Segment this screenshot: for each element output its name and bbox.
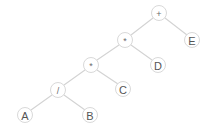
expression-tree-figure: +*E*D/CAB: [0, 0, 208, 132]
tree-node-times[interactable]: *: [118, 33, 133, 48]
tree-edge-n0-n2: [165, 18, 187, 35]
tree-edge-n3-n5: [64, 70, 85, 85]
tree-node-B[interactable]: B: [83, 108, 98, 123]
node-label-n0: +: [156, 9, 161, 19]
tree-edge-n5-n7: [31, 95, 52, 110]
tree-node-times[interactable]: *: [84, 58, 99, 73]
tree-edge-n1-n4: [131, 45, 152, 60]
node-label-n2: E: [188, 35, 195, 47]
tree-edge-n3-n6: [97, 70, 118, 84]
node-label-n7: A: [21, 110, 29, 122]
tree-node-C[interactable]: C: [116, 82, 131, 97]
tree-node-A[interactable]: A: [18, 108, 33, 123]
tree-node-E[interactable]: E: [185, 33, 200, 48]
node-label-n6: C: [119, 84, 127, 96]
expression-tree-canvas: +*E*D/CAB: [0, 0, 208, 132]
tree-node-D[interactable]: D: [151, 58, 166, 73]
node-label-n3: *: [89, 61, 93, 71]
tree-edge-n1-n3: [97, 45, 119, 60]
node-label-n1: *: [123, 36, 127, 46]
node-label-n8: B: [86, 110, 93, 122]
tree-node-divide[interactable]: /: [51, 83, 66, 98]
tree-edge-n5-n8: [64, 95, 85, 110]
tree-node-plus[interactable]: +: [152, 6, 167, 21]
node-label-n4: D: [154, 60, 162, 72]
tree-edge-n0-n1: [131, 18, 153, 35]
